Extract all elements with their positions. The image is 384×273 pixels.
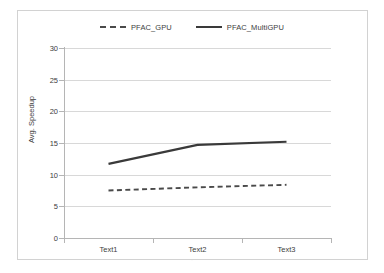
y-axis-line: [64, 47, 65, 239]
gridline: [64, 143, 331, 144]
legend-line-dashed-icon: [100, 26, 126, 28]
gridline: [64, 206, 331, 207]
x-tick-label: Text1: [100, 245, 118, 254]
x-tick-label: Text2: [189, 245, 207, 254]
x-axis-line: [64, 238, 332, 239]
x-tick-mark: [64, 238, 65, 243]
gridline: [64, 175, 331, 176]
legend-entry-pfac-gpu[interactable]: PFAC_GPU: [100, 23, 172, 32]
gridline: [64, 80, 331, 81]
legend-label-pfac-gpu: PFAC_GPU: [131, 23, 172, 32]
y-tick-label: 20: [34, 107, 58, 116]
y-tick-mark: [59, 206, 64, 207]
y-tick-mark: [59, 143, 64, 144]
y-tick-label: 25: [34, 75, 58, 84]
y-tick-label: 0: [34, 234, 58, 243]
y-tick-mark: [59, 48, 64, 49]
gridline: [64, 111, 331, 112]
x-tick-label: Text3: [278, 245, 296, 254]
x-tick-mark: [242, 238, 243, 243]
x-tick-mark: [331, 238, 332, 243]
plot-area: [64, 48, 331, 238]
y-tick-mark: [59, 80, 64, 81]
y-tick-label: 10: [34, 170, 58, 179]
legend-label-pfac-multigpu: PFAC_MultiGPU: [227, 23, 284, 32]
y-tick-label: 15: [34, 139, 58, 148]
y-tick-mark: [59, 175, 64, 176]
chart-legend: PFAC_GPU PFAC_MultiGPU: [0, 20, 384, 34]
x-tick-mark: [153, 238, 154, 243]
legend-entry-pfac-multigpu[interactable]: PFAC_MultiGPU: [196, 23, 284, 32]
y-tick-label: 5: [34, 202, 58, 211]
y-tick-label: 30: [34, 44, 58, 53]
gridline: [64, 48, 331, 49]
y-tick-mark: [59, 111, 64, 112]
legend-line-solid-icon: [196, 26, 222, 28]
y-axis-title: Avg. Speedup: [27, 96, 36, 143]
